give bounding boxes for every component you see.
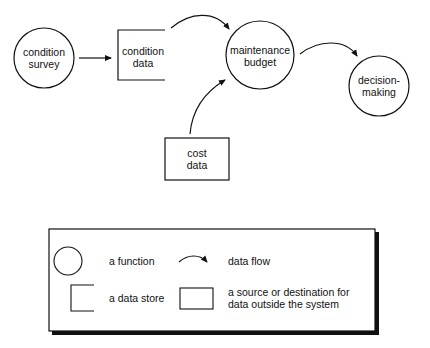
flow-arrow-store-to-budget (171, 15, 229, 29)
condition-data-label: condition data (118, 45, 168, 69)
flow-arrow-cost-to-budget (190, 80, 225, 134)
legend-source-label: a source or destination for data outside… (228, 286, 349, 310)
maintenance-budget-label: maintenance budget (224, 44, 296, 68)
legend-box (49, 229, 375, 331)
legend-data-store-label: a data store (109, 292, 164, 304)
decision-making-label: decision- making (349, 74, 409, 98)
legend-function-label: a function (109, 255, 155, 267)
flow-arrow-budget-to-decision (300, 43, 357, 56)
legend-data-flow-label: data flow (228, 255, 270, 267)
condition-survey-label: condition survey (14, 46, 74, 70)
cost-data-label: cost data (165, 147, 229, 171)
